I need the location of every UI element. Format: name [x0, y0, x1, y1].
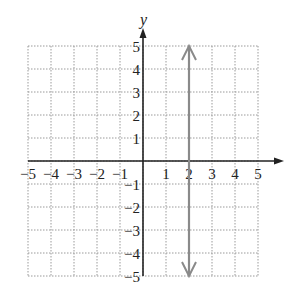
coordinate-graph: −5−4−3−2−11234554321−1−2−3−4−5 x y	[0, 0, 286, 299]
y-tick-label: 5	[133, 39, 141, 55]
y-tick-label: −2	[124, 200, 140, 216]
x-tick-label: 5	[254, 166, 262, 182]
x-tick-label: 3	[208, 166, 216, 182]
y-tick-label: −3	[124, 223, 140, 239]
y-tick-label: −5	[124, 269, 140, 285]
y-tick-label: 4	[133, 62, 141, 78]
y-tick-label: 3	[133, 85, 141, 101]
x-tick-label: −4	[43, 166, 59, 182]
y-tick-label: −1	[124, 177, 140, 193]
x-tick-label: 4	[231, 166, 239, 182]
x-tick-label: −3	[66, 166, 82, 182]
y-tick-label: 1	[133, 131, 141, 147]
y-axis-label: y	[138, 11, 148, 29]
tick-labels: −5−4−3−2−11234554321−1−2−3−4−5	[20, 39, 262, 285]
axes	[28, 28, 284, 276]
y-tick-label: 2	[133, 108, 141, 124]
y-axis-arrow-icon	[140, 28, 147, 38]
x-tick-label: 1	[162, 166, 170, 182]
x-axis-arrow-icon	[274, 158, 284, 165]
y-tick-label: −4	[124, 246, 140, 262]
x-tick-label: −2	[89, 166, 105, 182]
x-tick-label: −5	[20, 166, 36, 182]
